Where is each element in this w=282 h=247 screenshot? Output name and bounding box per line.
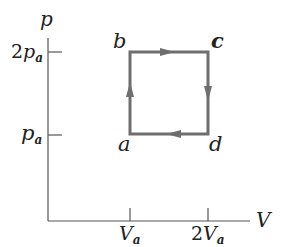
y-tick-2pa-coef: 2 [11, 40, 23, 62]
point-label-a: a [118, 132, 131, 156]
cycle-path [126, 48, 212, 138]
point-label-b: b [113, 29, 126, 53]
y-tick-pa-sub: a [34, 133, 42, 147]
x-tick-label-2va: 2Va [191, 222, 225, 247]
y-tick-label-2pa: 2pa [11, 40, 43, 65]
arrow-d-to-a-icon [166, 130, 181, 138]
arrow-c-to-d-icon [204, 86, 212, 101]
y-tick-pa-symbol: p [21, 121, 34, 145]
y-tick-2pa-symbol: p [23, 40, 35, 62]
arrow-a-to-b-icon [126, 82, 134, 97]
x-tick-2va-coef: 2 [191, 222, 203, 244]
point-label-d: d [209, 132, 222, 156]
pv-diagram-canvas: p V 2pa pa Va 2Va a b c [0, 0, 282, 247]
axes [48, 38, 250, 221]
x-tick-va-sub: a [133, 233, 141, 247]
x-axis-label: V [256, 208, 273, 232]
x-tick-label-va: Va [119, 222, 141, 247]
arrow-b-to-c-icon [160, 48, 175, 56]
point-label-c: c [211, 28, 224, 53]
y-tick-2pa-sub: a [35, 51, 43, 65]
y-axis-label: p [40, 7, 53, 31]
pv-diagram: p V 2pa pa Va 2Va a b c [0, 0, 282, 247]
y-tick-label-pa: pa [21, 121, 42, 147]
x-tick-2va-sub: a [217, 233, 225, 247]
